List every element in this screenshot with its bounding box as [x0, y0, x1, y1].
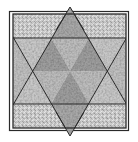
quilt-diagram [0, 0, 138, 142]
hexagram-quilt-figure [0, 0, 138, 142]
